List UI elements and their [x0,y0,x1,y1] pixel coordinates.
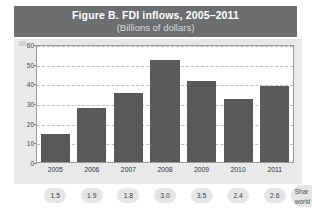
x-tick-label-2008: 2008 [147,165,184,175]
bar-2005 [41,134,70,162]
bar-2011 [260,86,289,162]
bar-slot [114,46,143,162]
y-axis: 0102030405060 [14,45,34,163]
bar-2010 [224,99,253,162]
x-axis-labels: 2005200620072008200920102011 [37,165,293,179]
share-value-2005: 1.5 [44,188,66,203]
y-tick-label: 50 [14,61,34,68]
share-value-2009: 3.5 [191,188,213,203]
share-label-line2: world [295,197,312,207]
share-value-2006: 1.9 [81,188,103,203]
share-label-line1: Shar [295,187,312,197]
x-tick-label-2010: 2010 [220,165,257,175]
bar-2007 [114,93,143,162]
y-tick-label: 40 [14,81,34,88]
y-tick-label: 0 [14,160,34,167]
figure-subtitle: (Billions of dollars) [14,22,297,34]
bar-slot [150,46,179,162]
share-value-2007: 1.8 [117,188,139,203]
bar-slot [77,46,106,162]
x-tick-label-2007: 2007 [110,165,147,175]
x-tick-label-2005: 2005 [37,165,74,175]
y-tick-label: 10 [14,140,34,147]
chart-panel: 0102030405060 20052006200720082009201020… [14,39,302,184]
figure-title-band: Figure B. FDI inflows, 2005–2011 (Billio… [14,6,297,37]
x-tick-label-2006: 2006 [74,165,111,175]
share-value-2010: 2.4 [227,188,249,203]
y-tick-label: 20 [14,120,34,127]
y-tick-label: 60 [14,42,34,49]
share-value-2011: 2.6 [264,188,286,203]
bar-series [37,46,293,162]
figure-title: Figure B. FDI inflows, 2005–2011 [14,9,297,22]
bar-2006 [77,108,106,162]
bar-slot [260,46,289,162]
bar-slot [41,46,70,162]
figure-container: Figure B. FDI inflows, 2005–2011 (Billio… [14,6,302,216]
bar-slot [224,46,253,162]
share-of-world-row: Shar world 1.51.91.83.03.52.42.6 [14,188,312,212]
x-tick-label-2009: 2009 [183,165,220,175]
y-tick-label: 30 [14,101,34,108]
y-tick-mark [34,163,37,164]
bar-2009 [187,81,216,162]
share-of-world-label: Shar world [291,185,312,207]
bar-2008 [150,60,179,162]
bar-slot [187,46,216,162]
share-value-2008: 3.0 [154,188,176,203]
x-tick-label-2011: 2011 [256,165,293,175]
